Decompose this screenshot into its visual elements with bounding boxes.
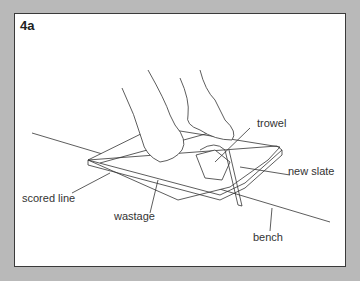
right-hand (180, 70, 234, 140)
label-bench: bench (253, 231, 283, 243)
illustration (0, 0, 360, 281)
label-trowel: trowel (257, 117, 286, 129)
label-scored-line: scored line (22, 192, 75, 204)
bench-leader (270, 208, 272, 231)
label-wastage: wastage (114, 210, 155, 222)
scored-line-leader (72, 173, 110, 193)
slate-top (88, 127, 280, 200)
label-new-slate: new slate (288, 165, 334, 177)
